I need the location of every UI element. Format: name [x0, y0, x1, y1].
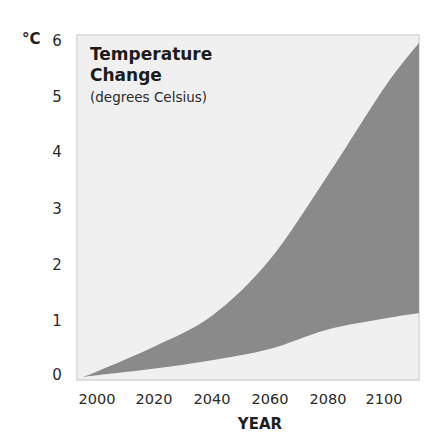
y-tick-3: 3 [47, 200, 67, 218]
y-tick-4: 4 [47, 143, 67, 161]
x-axis-label: YEAR [220, 415, 300, 433]
y-tick-1: 1 [47, 312, 67, 330]
x-tick-2000: 2000 [72, 391, 122, 407]
chart-title-block: Temperature Change (degrees Celsius) [90, 44, 220, 107]
y-tick-5: 5 [47, 88, 67, 106]
x-tick-2060: 2060 [245, 391, 295, 407]
temperature-change-chart: °C 6 5 4 3 2 1 0 2000 2020 2040 2060 208… [0, 0, 440, 441]
x-tick-2040: 2040 [187, 391, 237, 407]
x-tick-2080: 2080 [303, 391, 353, 407]
y-tick-2: 2 [47, 256, 67, 274]
y-tick-6: 6 [47, 32, 67, 50]
chart-title: Temperature Change [90, 44, 220, 86]
y-tick-0: 0 [47, 366, 67, 384]
x-tick-2020: 2020 [129, 391, 179, 407]
x-tick-2100: 2100 [359, 391, 409, 407]
chart-subtitle: (degrees Celsius) [90, 87, 220, 107]
y-axis-unit-label: °C [22, 30, 41, 48]
